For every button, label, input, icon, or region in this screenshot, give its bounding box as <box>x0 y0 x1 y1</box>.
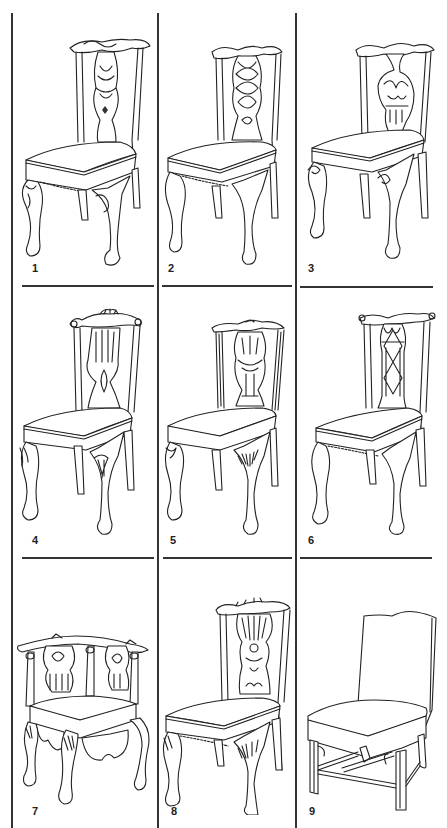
chair-4-drawing <box>12 300 157 540</box>
chair-5: 5 <box>158 300 295 555</box>
chair-2-number: 2 <box>168 262 174 274</box>
chair-1: 1 <box>12 30 157 285</box>
chair-1-drawing <box>12 30 157 270</box>
chair-3-number: 3 <box>308 262 314 274</box>
chair-2: 2 <box>158 30 295 285</box>
row-divider-2c <box>300 557 432 559</box>
chair-8-drawing <box>158 570 295 815</box>
chair-7: 7 <box>12 570 157 828</box>
row-divider-2a <box>22 557 154 559</box>
chair-6-drawing <box>296 300 447 540</box>
row-divider-1b <box>162 285 292 287</box>
chair-6: 6 <box>296 300 447 555</box>
chair-3: 3 <box>296 30 447 285</box>
chair-5-drawing <box>158 300 295 540</box>
chair-8-number: 8 <box>171 805 177 817</box>
chair-5-number: 5 <box>170 534 176 546</box>
chair-1-number: 1 <box>32 262 38 274</box>
chair-9: 9 <box>296 570 447 828</box>
row-divider-1c <box>300 286 433 288</box>
chair-7-drawing <box>12 570 157 815</box>
chair-2-drawing <box>158 30 295 270</box>
chair-3-drawing <box>296 30 447 270</box>
chair-plate: 1 2 <box>0 0 447 828</box>
chair-4-number: 4 <box>32 534 38 546</box>
row-divider-2b <box>163 557 292 559</box>
chair-9-number: 9 <box>309 805 315 817</box>
chair-7-number: 7 <box>32 805 38 817</box>
chair-4: 4 <box>12 300 157 555</box>
chair-9-drawing <box>296 570 447 815</box>
chair-8: 8 <box>158 570 295 828</box>
chair-6-number: 6 <box>308 534 314 546</box>
row-divider-1a <box>22 285 154 287</box>
